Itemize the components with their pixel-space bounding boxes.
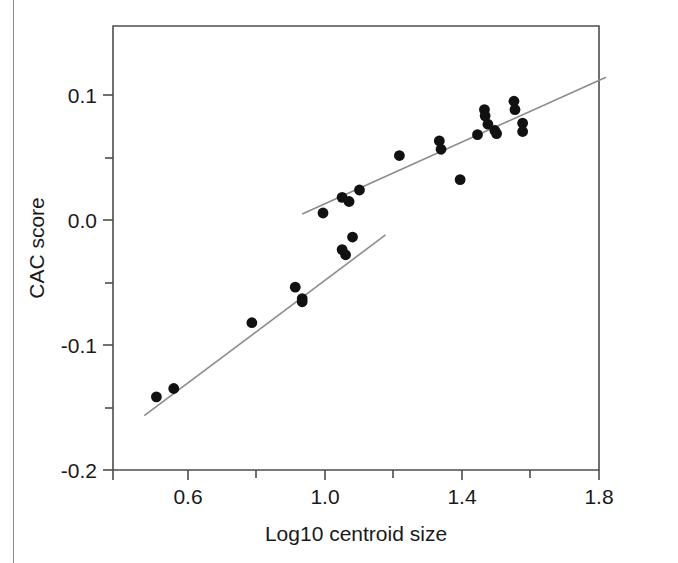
x-tick-label-1: 1.0	[310, 485, 339, 508]
data-point	[517, 126, 528, 137]
x-tick-label-0: 0.6	[173, 485, 202, 508]
data-point	[347, 232, 358, 243]
x-tick-label-2: 1.4	[447, 485, 477, 508]
data-point	[318, 208, 329, 219]
data-point	[297, 296, 308, 307]
data-point	[168, 383, 179, 394]
y-tick-label-3: -0.2	[61, 459, 97, 482]
scatter-points	[151, 96, 528, 402]
data-point	[455, 174, 466, 185]
data-point	[354, 185, 365, 196]
x-axis-title: Log10 centroid size	[265, 522, 447, 545]
data-point	[394, 150, 405, 161]
upper-segment-fit	[302, 77, 606, 214]
plot-frame	[113, 26, 599, 470]
data-point	[491, 128, 502, 139]
x-axis-tick-labels: 0.6 1.0 1.4 1.8	[173, 485, 613, 508]
data-point	[510, 104, 521, 115]
x-tick-label-3: 1.8	[584, 485, 613, 508]
fit-lines	[144, 77, 606, 415]
y-tick-label-1: 0.0	[68, 209, 97, 232]
figure-page: 0.1 0.0 -0.1 -0.2 0.6 1.0 1.4 1.8 Log10 …	[0, 0, 678, 563]
y-axis-title: CAC score	[25, 197, 48, 299]
y-axis-tick-labels: 0.1 0.0 -0.1 -0.2	[61, 84, 97, 482]
data-point	[290, 282, 301, 293]
x-axis-ticks	[113, 470, 599, 480]
y-axis-ticks	[103, 95, 113, 470]
frame-rect	[113, 26, 599, 470]
y-tick-label-2: -0.1	[61, 334, 97, 357]
data-point	[151, 391, 162, 402]
lower-segment-fit	[144, 235, 385, 416]
data-point	[246, 317, 257, 328]
data-point	[344, 196, 355, 207]
data-point	[340, 249, 351, 260]
y-tick-label-0: 0.1	[68, 84, 97, 107]
data-point	[472, 129, 483, 140]
scatter-plot: 0.1 0.0 -0.1 -0.2 0.6 1.0 1.4 1.8 Log10 …	[0, 0, 678, 563]
data-point	[436, 144, 447, 155]
